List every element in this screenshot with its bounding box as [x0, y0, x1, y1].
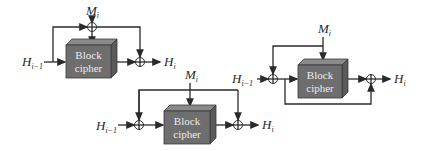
xor-icon [367, 75, 376, 84]
input-label: Hi−1 [95, 118, 117, 135]
xor-icon [234, 121, 243, 130]
scheme-3: Hi−1 Mi Block cipher Hi [231, 21, 406, 104]
output-label: Hi [163, 54, 176, 71]
block-cipher: Block cipher [66, 39, 117, 78]
svg-text:cipher: cipher [173, 128, 201, 140]
message-label: Mi [317, 21, 331, 38]
svg-text:cipher: cipher [306, 82, 334, 94]
input-label: Hi−1 [21, 54, 43, 71]
svg-text:Block: Block [174, 115, 201, 127]
svg-text:cipher: cipher [75, 62, 103, 74]
scheme-1: Hi−1 Mi Block cipher [21, 3, 176, 78]
input-label: Hi−1 [231, 71, 253, 88]
output-label: Hi [261, 117, 274, 134]
output-label: Hi [393, 71, 406, 88]
hash-compression-diagrams: Hi−1 Mi Block cipher [0, 0, 425, 151]
message-label: Mi [184, 67, 198, 84]
block-cipher: Block cipher [298, 59, 348, 98]
block-cipher: Block cipher [164, 105, 216, 144]
svg-text:Block: Block [307, 69, 334, 81]
xor-icon [135, 121, 144, 130]
xor-icon [88, 23, 97, 32]
message-label: Mi [85, 3, 99, 20]
xor-icon [269, 75, 278, 84]
xor-icon [136, 58, 145, 67]
svg-text:Block: Block [75, 49, 102, 61]
